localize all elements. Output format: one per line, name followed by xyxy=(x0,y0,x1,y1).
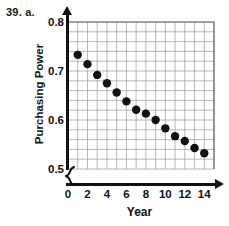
data-point xyxy=(122,97,130,105)
y-axis-line xyxy=(66,14,69,170)
plot-area xyxy=(68,22,214,169)
data-point xyxy=(103,79,111,87)
x-axis-title: Year xyxy=(0,205,229,219)
x-tick-label: 0 xyxy=(65,188,71,200)
data-point xyxy=(190,144,198,152)
x-tick-label: 12 xyxy=(178,188,191,200)
data-point xyxy=(74,51,82,59)
scatter-points-layer xyxy=(68,22,214,169)
data-point xyxy=(83,60,91,68)
data-point xyxy=(161,124,169,132)
data-point xyxy=(181,137,189,145)
y-tick-label: 0.5 xyxy=(24,163,64,175)
y-tick-label: 0.6 xyxy=(24,114,64,126)
x-tick-label: 8 xyxy=(143,188,149,200)
data-point xyxy=(93,71,101,79)
x-axis-line xyxy=(66,183,216,186)
y-tick-label: 0.7 xyxy=(24,65,64,77)
x-tick-label: 6 xyxy=(123,188,129,200)
data-point xyxy=(200,149,208,157)
x-tick-label: 10 xyxy=(159,188,172,200)
x-tick-label: 2 xyxy=(84,188,90,200)
x-tick-label: 4 xyxy=(104,188,110,200)
data-point xyxy=(132,106,140,114)
x-tick-label: 14 xyxy=(198,188,211,200)
data-point xyxy=(112,88,120,96)
y-tick-label: 0.8 xyxy=(24,16,64,28)
data-point xyxy=(171,132,179,140)
data-point xyxy=(151,116,159,124)
figure-container: 39. a. Purchasing Power 0.80.70.60.5 024… xyxy=(0,0,229,226)
data-point xyxy=(142,109,150,117)
